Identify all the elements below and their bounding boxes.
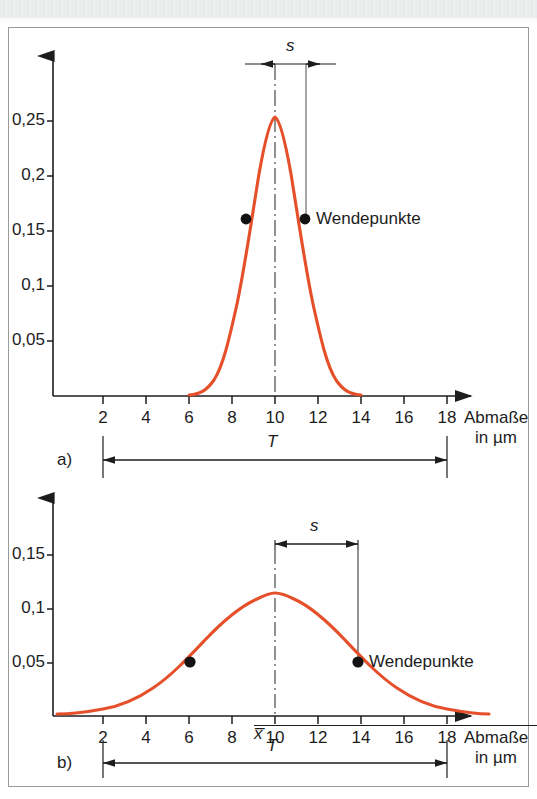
- panel-a-axis-label-line2: in µm: [475, 428, 517, 448]
- panel-a-xtick-10: 10: [260, 408, 290, 428]
- panel-b-xtick-2: 2: [88, 728, 118, 748]
- panel-a-axis-label-line1: Abmaße: [464, 408, 528, 428]
- scan-edge-artifact: [0, 0, 537, 18]
- panel-a-y-ticks: [47, 121, 53, 341]
- panel-b-xtick-18: 18: [432, 728, 462, 748]
- panel-a-xtick-2: 2: [88, 408, 118, 428]
- panel-b-ytick-0-05: 0,05: [1, 652, 45, 672]
- panel-a-ytick-0-1: 0,1: [1, 275, 45, 295]
- panel-a-xtick-8: 8: [217, 408, 247, 428]
- panel-a-inflection-right-dot: [300, 214, 311, 225]
- panel-b-xtick-8: 8: [217, 728, 247, 748]
- panel-a-letter: a): [57, 450, 72, 470]
- panel-a-ytick-0-15: 0,15: [1, 220, 45, 240]
- panel-b-xtick-14: 14: [346, 728, 376, 748]
- panel-b-inflection-label: Wendepunkte: [369, 652, 474, 672]
- panel-a-ytick-0-25: 0,25: [1, 110, 45, 130]
- panel-b-axis-label-line2: in µm: [475, 748, 517, 768]
- panel-b-s-label: s: [310, 516, 319, 536]
- panel-b-xtick-6: 6: [174, 728, 204, 748]
- panel-a-ytick-0-2: 0,2: [1, 165, 45, 185]
- panel-a-ytick-0-05: 0,05: [1, 330, 45, 350]
- figure-frame: 0,25 0,2 0,15 0,1 0,05 2 4 6 8 10 12 14 …: [8, 27, 529, 787]
- panel-a-s-label: s: [286, 36, 295, 56]
- panel-b: 0,15 0,1 0,05 2 4 6 8 10 12 14 16 18 Abm…: [9, 478, 530, 788]
- panel-b-inflection-right-dot: [352, 656, 363, 667]
- panel-a-xtick-16: 16: [389, 408, 419, 428]
- panel-a-x-ticks: [103, 396, 447, 404]
- figure-page: 0,25 0,2 0,15 0,1 0,05 2 4 6 8 10 12 14 …: [0, 0, 537, 799]
- panel-a-inflection-left-dot: [241, 214, 252, 225]
- panel-b-xtick-16: 16: [389, 728, 419, 748]
- panel-a-xtick-12: 12: [303, 408, 333, 428]
- panel-a-xtick-18: 18: [432, 408, 462, 428]
- panel-a-tolerance-label: T: [267, 432, 277, 452]
- panel-b-y-ticks: [47, 555, 53, 663]
- panel-b-ytick-0-15: 0,15: [1, 544, 45, 564]
- scan-edge-artifact-fade: [0, 18, 537, 24]
- panel-b-xtick-4: 4: [131, 728, 161, 748]
- panel-a-xtick-6: 6: [174, 408, 204, 428]
- panel-a-xtick-4: 4: [131, 408, 161, 428]
- panel-b-tolerance-label: T: [267, 736, 277, 756]
- panel-b-xtick-12: 12: [303, 728, 333, 748]
- panel-b-inflection-left-dot: [184, 656, 195, 667]
- panel-a: 0,25 0,2 0,15 0,1 0,05 2 4 6 8 10 12 14 …: [9, 28, 530, 478]
- panel-b-axis-label-line1: Abmaße: [464, 728, 528, 748]
- panel-a-inflection-label: Wendepunkte: [316, 209, 421, 229]
- panel-b-ytick-0-1: 0,1: [1, 598, 45, 618]
- panel-b-letter: b): [57, 753, 72, 773]
- panel-a-xtick-14: 14: [346, 408, 376, 428]
- panel-b-x-ticks: [103, 716, 447, 724]
